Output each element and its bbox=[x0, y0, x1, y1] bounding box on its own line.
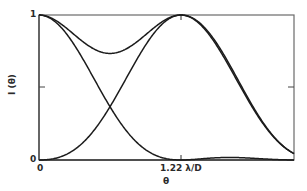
x-tick-label-1.22: 1.22 λ/D bbox=[160, 164, 202, 173]
y-axis-title: I (θ) bbox=[8, 74, 17, 95]
y-tick-label-0: 0 bbox=[30, 155, 36, 164]
curve-sum bbox=[39, 15, 294, 154]
y-tick-label-1: 1 bbox=[30, 10, 36, 19]
curves-group bbox=[39, 15, 294, 160]
x-axis-title: θ bbox=[163, 177, 169, 186]
x-tick-label-0: 0 bbox=[37, 164, 43, 173]
rayleigh-criterion-plot bbox=[0, 0, 307, 191]
